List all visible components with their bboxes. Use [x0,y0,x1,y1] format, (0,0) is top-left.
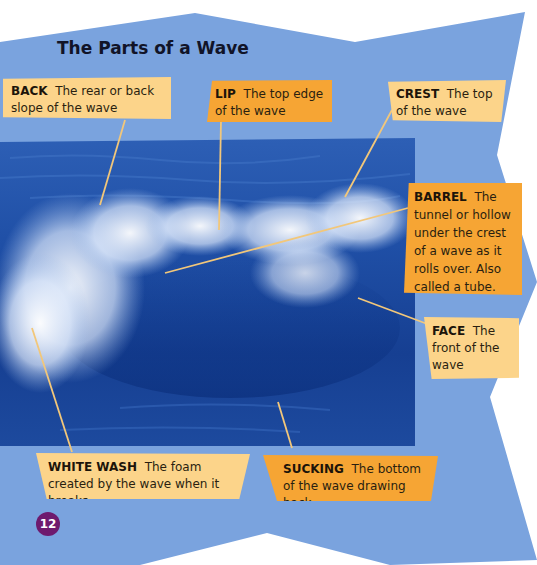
label-face-term: FACE [432,324,465,338]
label-sucking: SUCKING The bottom of the wave drawing b… [263,455,438,501]
label-lip: LIP The top edge of the wave [207,80,332,122]
label-white-wash: WHITE WASH The foam created by the wave … [36,453,250,499]
label-crest-term: CREST [396,87,439,101]
label-barrel-definition: The tunnel or hollow under the crest of … [414,190,511,294]
label-back-term: BACK [11,84,48,98]
label-barrel: BARREL The tunnel or hollow under the cr… [404,183,522,295]
label-white-wash-term: WHITE WASH [48,460,137,474]
page-title: The Parts of a Wave [57,38,249,58]
label-back: BACK The rear or back slope of the wave [3,77,171,119]
label-crest: CREST The top of the wave [388,80,506,122]
label-sucking-term: SUCKING [283,462,344,476]
label-barrel-term: BARREL [414,190,467,204]
label-lip-term: LIP [215,87,236,101]
page-number-badge: 12 [36,512,60,536]
label-face: FACE The front of the wave [424,317,519,379]
wave-photo [0,138,415,446]
